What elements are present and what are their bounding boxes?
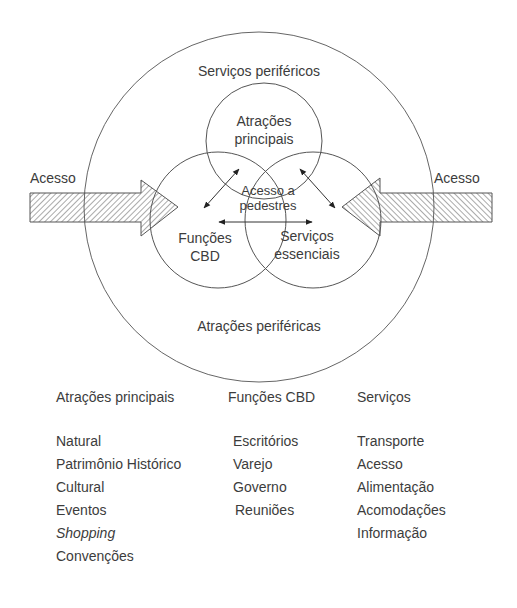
legend-item: Acesso (357, 453, 446, 476)
legend-item: Reuniões (228, 499, 315, 522)
legend-item: Transporte (357, 430, 446, 453)
label-access-right: Acesso (434, 170, 480, 187)
legend-item: Informação (357, 522, 446, 545)
tourism-zone-diagram: Serviços periféricos Atrações periférica… (0, 0, 517, 400)
label-cbd-functions-2: CBD (190, 248, 220, 265)
legend-item: Shopping (56, 522, 181, 545)
legend-item: Varejo (228, 453, 315, 476)
legend-header: Serviços (357, 389, 446, 406)
legend-item: Patrimônio Histórico (56, 453, 181, 476)
label-main-attractions-2: principais (234, 131, 293, 148)
legend-item: Acomodações (357, 499, 446, 522)
legend-item: Eventos (56, 499, 181, 522)
legend-column-main-attractions: Atrações principais Natural Patrimônio H… (56, 389, 181, 568)
legend-header: Atrações principais (56, 389, 181, 406)
legend-item: Convenções (56, 545, 181, 568)
legend-item: Escritórios (228, 430, 315, 453)
label-essential-services-2: essenciais (274, 246, 339, 263)
label-pedestrian-access-2: pedestres (239, 199, 296, 213)
legend-header: Funções CBD (228, 389, 315, 406)
label-peripheral-services: Serviços periféricos (198, 63, 320, 80)
legend-item: Alimentação (357, 476, 446, 499)
label-peripheral-attractions: Atrações periféricas (197, 318, 321, 335)
legend-item: Natural (56, 430, 181, 453)
arrow-attractions-services (300, 169, 335, 208)
legend-column-cbd-functions: Funções CBD Escritórios Varejo Governo R… (228, 389, 315, 522)
legend-column-services: Serviços Transporte Acesso Alimentação A… (357, 389, 446, 545)
label-main-attractions-1: Atrações (236, 113, 291, 130)
label-pedestrian-access-1: Acesso a (241, 184, 294, 198)
label-access-left: Acesso (30, 170, 76, 187)
access-arrow-left (30, 180, 178, 236)
legend-item: Cultural (56, 476, 181, 499)
legend-item: Governo (228, 476, 315, 499)
label-cbd-functions-1: Funções (178, 230, 232, 247)
label-essential-services-1: Serviços (280, 228, 334, 245)
